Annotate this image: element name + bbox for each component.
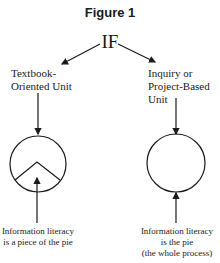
pie-right [147,134,205,192]
arrow-if-to-textbook [62,44,100,64]
textbook-label-line1: Textbook- [11,67,56,80]
right-caption-line2: is the pie [136,237,218,248]
pie-slice [15,162,60,180]
left-caption-line2: is a piece of the pie [0,237,76,248]
inquiry-label-line2: Project-Based [148,80,210,93]
inquiry-label-line1: Inquiry or [148,67,192,80]
inquiry-label-line3: Unit [148,93,168,106]
pie-left [10,136,66,192]
right-caption-line1: Information literacy [136,226,218,237]
left-caption-line1: Information literacy [0,226,76,237]
textbook-label-line2: Oriented Unit [11,80,72,93]
arrow-if-to-inquiry [118,44,155,62]
right-caption-line3: (the whole process) [136,248,218,259]
diagram-connectors [0,0,220,263]
